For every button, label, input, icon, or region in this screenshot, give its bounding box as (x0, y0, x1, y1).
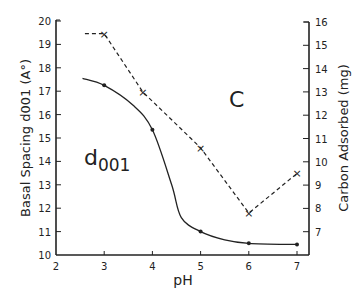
series-carbon-marker: × (138, 86, 147, 99)
chart-container: 234567 1011121314151617181920 7891011121… (0, 0, 364, 297)
series-d001-marker (295, 242, 299, 246)
series-d001-marker (199, 230, 203, 234)
y-tick-label: 19 (38, 39, 51, 50)
y-right-tick-label: 9 (315, 180, 321, 191)
y-axis-label-right: Carbon Adsorbed (mg) (336, 64, 351, 212)
series-d001-marker (102, 83, 106, 87)
series-carbon-marker: × (100, 28, 109, 41)
series-d001-marker (247, 241, 251, 245)
y-axis-label-left: Basal Spacing d001 (A°) (18, 59, 33, 217)
y-tick-label: 18 (38, 63, 51, 74)
series-d001-marker (150, 128, 154, 132)
y-right-tick-label: 8 (315, 203, 321, 214)
y-right-tick-label: 14 (315, 64, 328, 75)
y-right-tick-label: 13 (315, 87, 328, 98)
y-tick-label: 10 (38, 250, 51, 261)
x-tick-label: 5 (197, 261, 203, 272)
y-right-tick-label: 11 (315, 134, 328, 145)
y-right-tick-label: 7 (315, 227, 321, 238)
series-carbon-marker: × (292, 167, 301, 180)
y-tick-label: 13 (38, 180, 51, 191)
y-right-tick-label: 10 (315, 157, 328, 168)
y-right-tick-label: 15 (315, 40, 328, 51)
x-tick-label: 7 (294, 261, 300, 272)
annotation-c-label: C (229, 87, 244, 112)
series-carbon-marker: × (196, 142, 205, 155)
annotation-d001-subscript: 001 (98, 155, 130, 175)
x-axis-ticks: 234567 (53, 251, 300, 272)
y-axis-ticks-left: 1011121314151617181920 (38, 16, 61, 261)
y-tick-label: 16 (38, 110, 51, 121)
x-tick-label: 2 (53, 261, 59, 272)
x-tick-label: 6 (246, 261, 252, 272)
x-tick-label: 4 (149, 261, 155, 272)
y-tick-label: 15 (38, 133, 51, 144)
series-carbon-line (85, 34, 297, 213)
series-carbon-marker: × (244, 207, 253, 220)
y-tick-label: 12 (38, 203, 51, 214)
chart-svg: 234567 1011121314151617181920 7891011121… (0, 0, 364, 297)
y-tick-label: 11 (38, 227, 51, 238)
y-tick-label: 17 (38, 86, 51, 97)
y-axis-ticks-right: 78910111213141516 (303, 17, 328, 238)
y-tick-label: 20 (38, 16, 51, 27)
y-right-tick-label: 12 (315, 110, 328, 121)
series-layer: ××××× (83, 28, 302, 247)
x-axis-label: pH (173, 272, 192, 288)
y-tick-label: 14 (38, 156, 51, 167)
x-tick-label: 3 (101, 261, 107, 272)
annotation-d001-label: d001 (84, 145, 130, 175)
y-right-tick-label: 16 (315, 17, 328, 28)
